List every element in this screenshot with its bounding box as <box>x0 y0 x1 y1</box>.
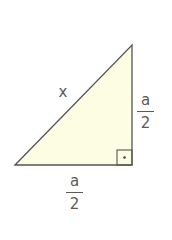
vertical-leg-numerator: a <box>141 93 150 108</box>
horizontal-leg-numerator: a <box>70 174 79 189</box>
vertical-leg-label: a 2 <box>137 93 154 131</box>
right-triangle <box>15 45 132 165</box>
horizontal-leg-label: a 2 <box>66 174 83 212</box>
horizontal-leg-denominator: 2 <box>70 197 80 212</box>
right-angle-dot <box>123 156 126 159</box>
vertical-leg-denominator: 2 <box>141 116 151 131</box>
fraction-bar <box>66 192 83 193</box>
fraction-bar <box>137 111 154 112</box>
hypotenuse-label: x <box>57 85 69 100</box>
